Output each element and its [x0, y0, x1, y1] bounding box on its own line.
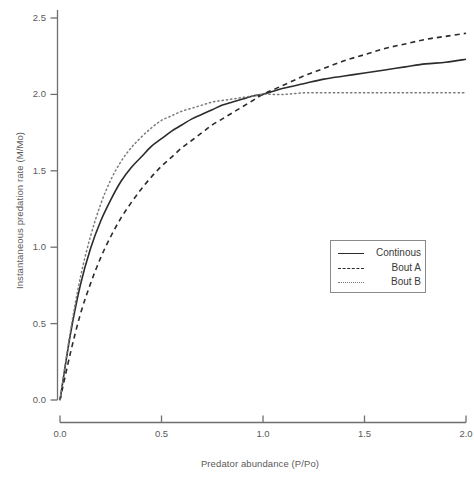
x-tick-label: 1.5 [350, 428, 380, 439]
x-tick-label: 0.0 [45, 428, 75, 439]
legend-item-continous: Continous [331, 246, 427, 261]
data-series-group [60, 33, 466, 400]
legend-label-bout-b: Bout B [391, 276, 421, 287]
chart-figure: Instantaneous predation rate (M/Mo) Pred… [0, 0, 474, 480]
legend-item-bout-a: Bout A [331, 261, 427, 276]
series-line-bout-a [60, 33, 466, 400]
y-tick-label: 1.0 [20, 241, 46, 252]
legend-label-bout-a: Bout A [392, 262, 421, 273]
y-axis-ticks [51, 18, 58, 400]
x-tick-label: 0.5 [147, 428, 177, 439]
y-tick-label: 2.0 [20, 88, 46, 99]
x-axis-ticks [60, 416, 466, 423]
series-line-continous [60, 59, 466, 400]
x-tick-label: 2.0 [451, 428, 474, 439]
y-tick-label: 0.0 [20, 394, 46, 405]
legend-item-bout-b: Bout B [331, 275, 427, 290]
axis-lines [58, 10, 467, 423]
y-axis-label: Instantaneous predation rate (M/Mo) [14, 116, 25, 306]
y-tick-label: 1.5 [20, 165, 46, 176]
y-tick-label: 0.5 [20, 318, 46, 329]
legend-label-continous: Continous [376, 247, 421, 258]
chart-legend: Continous Bout A Bout B [330, 240, 426, 293]
x-tick-label: 1.0 [248, 428, 278, 439]
legend-line-sample-dashed-icon [338, 268, 364, 269]
y-tick-label: 2.5 [20, 12, 46, 23]
legend-line-sample-solid-icon [338, 253, 364, 254]
x-axis-label: Predator abundance (P/Po) [80, 458, 440, 469]
legend-line-sample-dotted-icon [338, 282, 364, 283]
